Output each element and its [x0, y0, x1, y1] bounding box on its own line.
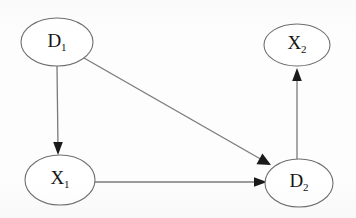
graph-svg: D1 X2 X1 D2 [0, 0, 356, 218]
node-d1[interactable]: D1 [21, 18, 93, 66]
edge-d1-to-x1-line [57, 66, 58, 148]
edge-d2-to-x2 [292, 68, 302, 159]
edge-x1-to-d2 [95, 177, 267, 187]
edge-d1-to-x1-arrowhead [53, 142, 63, 155]
node-x2[interactable]: X2 [264, 24, 330, 66]
node-group: D1 X2 X1 D2 [21, 18, 333, 207]
edge-d1-to-d2 [84, 58, 271, 165]
node-x1[interactable]: X1 [25, 155, 95, 205]
node-d2[interactable]: D2 [265, 159, 333, 207]
edge-d1-to-x1 [53, 66, 63, 155]
edge-d1-to-d2-line [84, 58, 264, 161]
diagram-canvas: D1 X2 X1 D2 [0, 0, 356, 218]
edge-d1-to-d2-arrowhead [257, 154, 272, 165]
edge-d2-to-x2-arrowhead [292, 68, 302, 81]
